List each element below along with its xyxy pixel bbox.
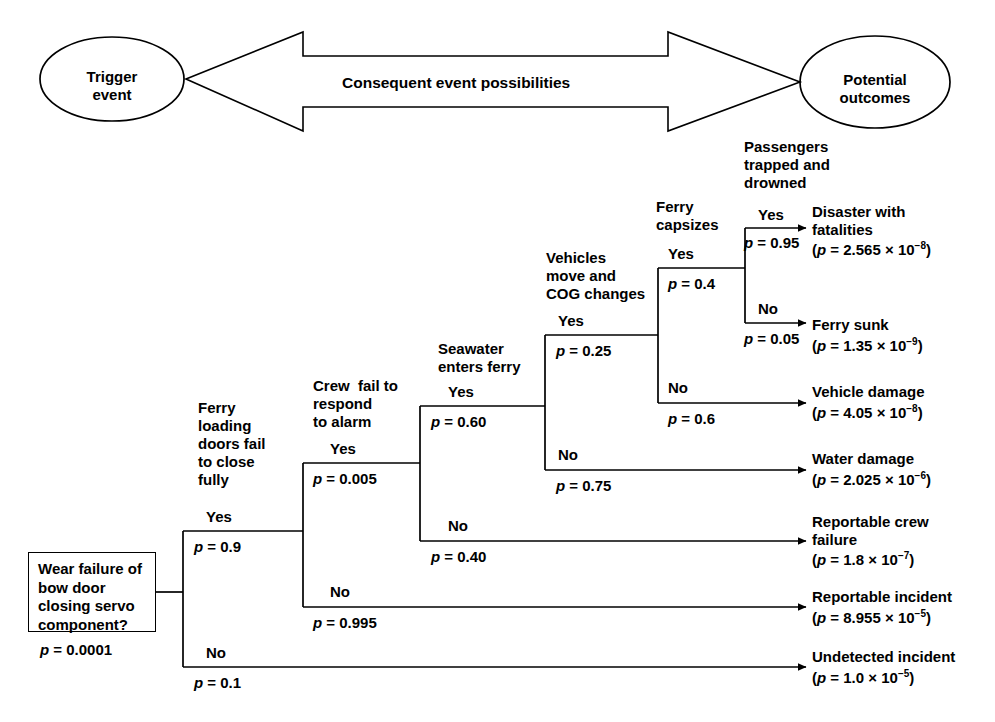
prob-crew-yes: p = 0.005 [313,470,377,488]
trigger-event-label: Trigger event [52,68,172,104]
label-crew-yes: Yes [330,440,356,458]
outcome-prob-3: (p = 2.025 × 10−6) [812,471,931,489]
trigger-question-box: Wear failure of bow door closing servo c… [28,552,156,632]
prob-drowned-yes: p = 0.95 [744,234,799,252]
prob-capsize-yes: p = 0.4 [668,275,715,293]
outcome-label-0: Disaster with fatalities [812,203,905,239]
label-drowned-no: No [758,300,778,318]
outcome-prob-5: (p = 8.955 × 10−5) [812,609,931,627]
prob-crew-no: p = 0.995 [313,614,377,632]
node-label-passengers: Passengers trapped and drowned [744,138,830,192]
label-vehicles-no: No [558,446,578,464]
prob-vehicles-no: p = 0.75 [556,477,611,495]
outcome-label-5: Reportable incident [812,588,952,606]
prob-seawater-yes: p = 0.60 [431,413,486,431]
outcome-label-1: Ferry sunk [812,316,889,334]
prob-drowned-no: p = 0.05 [744,330,799,348]
outcome-prob-6: (p = 1.0 × 10−5) [812,669,914,687]
node-label-vehicles-cog: Vehicles move and COG changes [546,249,645,303]
event-tree-diagram: Trigger event Potential outcomes Consequ… [0,0,995,722]
label-drowned-yes: Yes [758,206,784,224]
outcome-label-2: Vehicle damage [812,383,925,401]
outcome-label-3: Water damage [812,450,914,468]
outcome-prob-1: (p = 1.35 × 10−9) [812,337,923,355]
outcome-prob-2: (p = 4.05 × 10−8) [812,404,923,422]
node-label-ferry-capsizes: Ferry capsizes [656,198,719,234]
prob-capsize-no: p = 0.6 [668,410,715,428]
label-capsize-no: No [668,379,688,397]
prob-doors-no: p = 0.1 [194,674,241,692]
outcome-label-6: Undetected incident [812,648,955,666]
outcome-prob-4: (p = 1.8 × 10−7) [812,551,914,569]
label-doors-no: No [206,644,226,662]
label-seawater-no: No [448,517,468,535]
banner-center-label: Consequent event possibilities [342,74,570,92]
prob-seawater-no: p = 0.40 [431,548,486,566]
potential-outcomes-label: Potential outcomes [812,71,938,107]
label-doors-yes: Yes [206,508,232,526]
prob-doors-yes: p = 0.9 [194,538,241,556]
outcome-prob-0: (p = 2.565 × 10−8) [812,241,931,259]
label-crew-no: No [330,583,350,601]
outcome-label-4: Reportable crew failure [812,513,929,549]
prob-vehicles-yes: p = 0.25 [556,342,611,360]
node-label-crew-alarm: Crew fail to respond to alarm [313,377,398,431]
label-vehicles-yes: Yes [558,312,584,330]
label-capsize-yes: Yes [668,245,694,263]
label-seawater-yes: Yes [448,383,474,401]
node-label-seawater: Seawater enters ferry [438,340,521,376]
trigger-probability: p = 0.0001 [40,641,112,659]
node-label-ferry-doors: Ferry loading doors fail to close fully [198,399,266,489]
